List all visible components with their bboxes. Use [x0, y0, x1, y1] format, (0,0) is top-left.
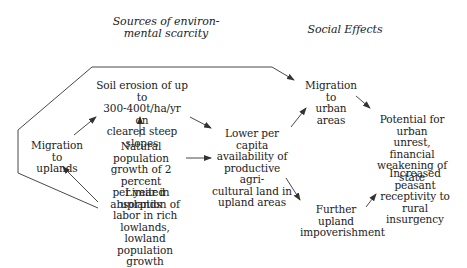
node-lower-per-capita: Lower per capita availability of product… [212, 128, 292, 209]
node-soil-erosion: Soil erosion of up to 300-400t/ha/yr on … [96, 80, 188, 149]
node-limited-absorption: Limited absorption of labor in rich lowl… [96, 187, 194, 268]
header-social-effects: Social Effects [290, 24, 400, 36]
node-migration-urban: Migration to urban areas [300, 80, 362, 126]
node-further-impoverishment: Further upland impoverishment [300, 204, 372, 239]
uplands-to-erosion-arrow [74, 117, 96, 135]
node-peasant-receptivity: Increased peasant receptivity to rural i… [372, 168, 458, 226]
header-sources: Sources of environ- mental scarcity [96, 16, 236, 40]
erosion-to-lower-arrow [190, 117, 211, 128]
node-migration-uplands: Migration to uplands [26, 140, 88, 175]
